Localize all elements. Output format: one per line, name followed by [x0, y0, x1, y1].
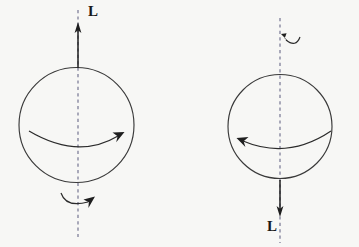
- left-equator-spin-arrowhead: [113, 132, 125, 142]
- left-panel-group: [19, 10, 134, 237]
- left-base-spin-arc: [61, 193, 88, 204]
- right-equator-spin-arc: [243, 131, 331, 149]
- right-top-spin-arrowhead: [281, 33, 289, 41]
- right-angular-momentum-label: L: [267, 219, 277, 234]
- left-equator-spin-arc: [29, 131, 118, 147]
- diagram-canvas: [0, 0, 359, 247]
- left-angular-momentum-label: L: [88, 4, 98, 19]
- left-sphere-outline: [19, 68, 134, 183]
- angular-momentum-figure: L L: [0, 0, 359, 247]
- right-top-spin-arc: [286, 37, 300, 43]
- right-panel-group: [228, 18, 332, 243]
